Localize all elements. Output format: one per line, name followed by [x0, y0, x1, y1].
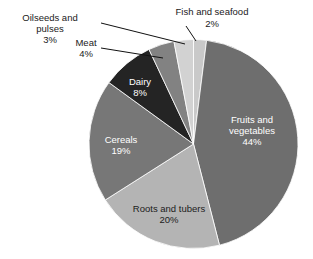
meat-label-line1: Meat: [75, 37, 96, 48]
leader-line-oilseeds: [101, 23, 185, 44]
oilseeds-label-line1: Oilseeds and: [22, 12, 77, 23]
outside-label-meat: Meat 4%: [75, 37, 96, 59]
oilseeds-label-line2: pulses: [36, 23, 64, 34]
outside-label-oilseeds: Oilseeds and pulses 3%: [22, 12, 77, 45]
roots-label-value: 20%: [159, 214, 179, 225]
fish-label-line1: Fish and seafood: [176, 6, 249, 17]
oilseeds-label-value: 3%: [43, 34, 57, 45]
dairy-label-line1: Dairy: [129, 76, 151, 87]
fruits-label-value: 44%: [242, 136, 262, 147]
dairy-label-value: 8%: [133, 87, 147, 98]
fruits-label-line1: Fruits and: [231, 114, 273, 125]
meat-label-value: 4%: [79, 48, 93, 59]
leader-line-fish: [186, 26, 196, 41]
cereals-label-value: 19%: [111, 145, 131, 156]
pie-chart-canvas: Oilseeds and pulses 3% Meat 4% Fish and …: [0, 0, 313, 259]
outside-label-fish: Fish and seafood 2%: [176, 6, 249, 29]
pie-chart: Oilseeds and pulses 3% Meat 4% Fish and …: [0, 0, 313, 259]
fruits-label-line2: vegetables: [229, 125, 275, 136]
fish-label-value: 2%: [205, 18, 219, 29]
roots-label-line1: Roots and tubers: [133, 203, 206, 214]
cereals-label-line1: Cereals: [105, 134, 138, 145]
